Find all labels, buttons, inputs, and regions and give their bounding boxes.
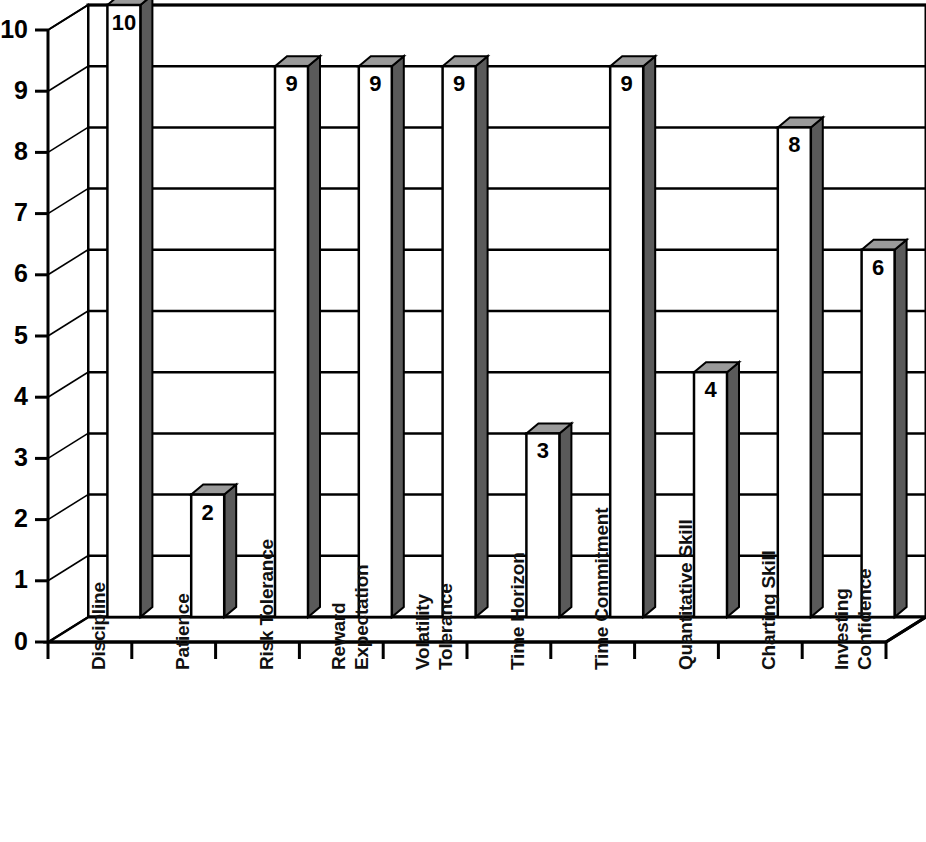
y-axis-tick-label: 10 bbox=[0, 15, 28, 43]
x-axis-category-label: Patience bbox=[172, 593, 193, 670]
bar-value-label: 10 bbox=[112, 10, 136, 35]
bar bbox=[443, 56, 488, 617]
bar-value-label: 6 bbox=[872, 255, 884, 280]
bar-value-label: 3 bbox=[537, 438, 549, 463]
y-axis-tick-label: 6 bbox=[14, 259, 28, 287]
bar-value-label: 9 bbox=[285, 71, 297, 96]
y-axis-tick-label: 0 bbox=[14, 627, 28, 655]
bar-value-label: 9 bbox=[621, 71, 633, 96]
bar-value-label: 2 bbox=[202, 500, 214, 525]
x-axis-category-label: Time Commitment bbox=[591, 507, 612, 670]
bar-value-label: 9 bbox=[453, 71, 465, 96]
bar-value-label: 4 bbox=[704, 377, 717, 402]
x-axis-category-label: Expectation bbox=[351, 565, 372, 671]
y-axis-tick-label: 1 bbox=[14, 565, 28, 593]
x-axis-category-label: Investing bbox=[831, 588, 852, 670]
x-axis-category-label: Quantitative Skill bbox=[675, 519, 696, 670]
bar bbox=[778, 117, 823, 617]
x-axis-category-label: Confidence bbox=[854, 569, 875, 670]
y-axis-tick-label: 4 bbox=[14, 382, 28, 410]
y-axis-tick-labels: 012345678910 bbox=[0, 15, 28, 655]
bar bbox=[862, 240, 907, 617]
x-axis-category-label: Volatility bbox=[412, 594, 433, 670]
y-axis-tick-label: 9 bbox=[14, 76, 28, 104]
x-axis-category-label: Reward bbox=[328, 603, 349, 670]
bar bbox=[359, 56, 404, 617]
chart-canvas: 012345678910 10299939486 DisciplinePatie… bbox=[0, 0, 926, 842]
x-axis-category-label: Discipline bbox=[88, 582, 109, 670]
x-axis-category-label: Risk Tolerance bbox=[256, 539, 277, 670]
y-axis-tick-label: 7 bbox=[14, 198, 28, 226]
bar bbox=[610, 56, 655, 617]
bar-value-label: 9 bbox=[369, 71, 381, 96]
bar bbox=[275, 56, 320, 617]
y-axis-tick-label: 2 bbox=[14, 504, 28, 532]
bar bbox=[107, 0, 152, 617]
y-axis-tick-label: 3 bbox=[14, 443, 28, 471]
x-axis-category-label: Time Horizon bbox=[507, 552, 528, 670]
x-axis-category-label: Charting Skill bbox=[758, 550, 779, 670]
y-axis-tick-label: 5 bbox=[14, 321, 28, 349]
x-axis-category-label: Tolerance bbox=[435, 583, 456, 670]
bar-value-label: 8 bbox=[788, 132, 800, 157]
bar-chart: 012345678910 10299939486 DisciplinePatie… bbox=[0, 0, 926, 842]
y-axis-tick-label: 8 bbox=[14, 137, 28, 165]
